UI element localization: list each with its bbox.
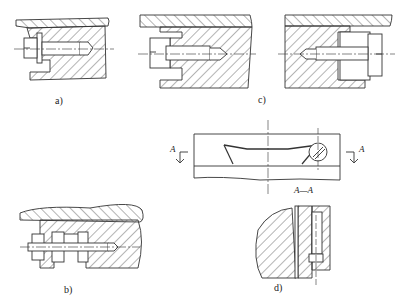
panel-label-b: b) [64, 284, 72, 295]
section-title: A—A [294, 185, 313, 195]
panel-c-drawing [138, 15, 256, 88]
section-mark-right: A [359, 144, 365, 154]
panel-d-top-view [176, 120, 358, 195]
section-mark-left: A [170, 144, 176, 154]
panel-c2-drawing [278, 15, 395, 88]
panel-b-drawing [20, 204, 143, 268]
panel-label-c: c) [258, 94, 266, 105]
panel-label-d: d) [274, 282, 282, 293]
panel-label-a: a) [55, 95, 63, 106]
panel-a-drawing [14, 18, 114, 80]
technical-drawing [0, 0, 401, 304]
panel-d-section [256, 206, 330, 285]
